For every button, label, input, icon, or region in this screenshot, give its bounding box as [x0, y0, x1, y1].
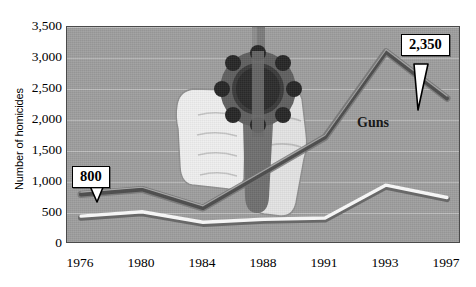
callout-2350: 2,350 — [401, 34, 450, 56]
callout-tails — [66, 26, 460, 243]
y-tick-2500: 2,500 — [14, 81, 62, 95]
x-tick-1991: 1991 — [294, 255, 354, 271]
y-tick-3500: 3,500 — [14, 19, 62, 33]
callout-800: 800 — [72, 166, 110, 188]
chart-figure: Number of homicides 05001,0001,5002,0002… — [0, 0, 476, 287]
y-tick-3000: 3,000 — [14, 50, 62, 64]
y-tick-1000: 1,000 — [14, 174, 62, 188]
x-tick-1997: 1997 — [416, 255, 476, 271]
y-axis-tick-labels: 05001,0001,5002,0002,5003,0003,500 — [10, 0, 62, 287]
y-tick-0: 0 — [14, 236, 62, 250]
x-tick-1980: 1980 — [111, 255, 171, 271]
x-tick-1993: 1993 — [355, 255, 415, 271]
y-tick-500: 500 — [14, 205, 62, 219]
x-tick-1988: 1988 — [233, 255, 293, 271]
x-tick-1984: 1984 — [172, 255, 232, 271]
x-tick-1976: 1976 — [50, 255, 110, 271]
y-tick-2000: 2,000 — [14, 112, 62, 126]
y-tick-1500: 1,500 — [14, 143, 62, 157]
